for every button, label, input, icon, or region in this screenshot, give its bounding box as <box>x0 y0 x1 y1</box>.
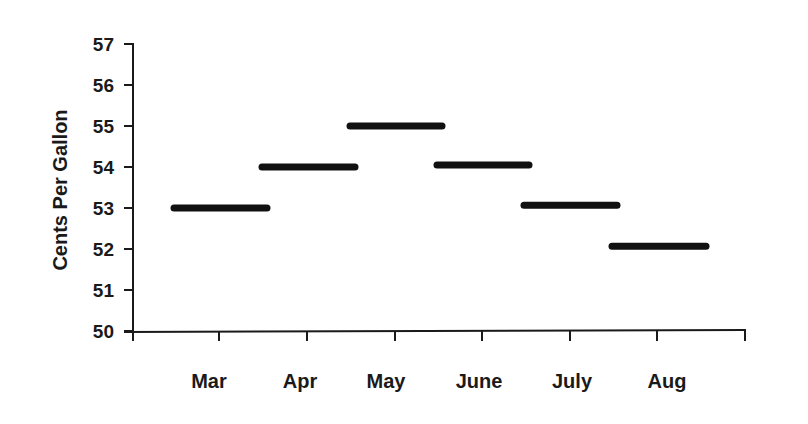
x-axis <box>124 330 746 341</box>
x-category-labels: Mar Apr May June July Aug <box>191 370 686 392</box>
y-tick-label: 52 <box>93 239 114 260</box>
x-category-label: Aug <box>648 370 687 392</box>
y-tick-label: 57 <box>93 34 114 55</box>
chart: Cents Per Gallon 57 56 55 54 53 52 51 50… <box>0 0 808 424</box>
y-tick-labels: 57 56 55 54 53 52 51 50 <box>93 34 115 342</box>
y-tick-label: 50 <box>93 321 114 342</box>
y-tick-label: 53 <box>93 198 114 219</box>
x-category-label: May <box>367 370 407 392</box>
data-series <box>174 126 706 246</box>
y-tick-label: 54 <box>93 157 115 178</box>
y-tick-label: 51 <box>93 280 115 301</box>
x-category-label: Mar <box>191 370 227 392</box>
y-tick-label: 55 <box>93 116 115 137</box>
y-tick-label: 56 <box>93 75 114 96</box>
x-category-label: July <box>552 370 593 392</box>
y-axis-title: Cents Per Gallon <box>49 109 71 270</box>
x-category-label: June <box>456 370 503 392</box>
x-category-label: Apr <box>283 370 318 392</box>
y-axis <box>124 43 133 340</box>
